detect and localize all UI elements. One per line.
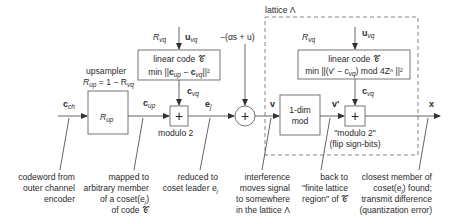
svg-text:"finite lattice: "finite lattice (302, 183, 348, 193)
annotation-back-to-region: back to "finite lattice region" of 𝒞 (302, 172, 349, 204)
svg-text:encoder: encoder (44, 194, 75, 204)
svg-text:of a coset(ej): of a coset(ej) (100, 194, 149, 205)
coset-coding-diagram: lattice Λ cch Rup upsampler Rup = 1 − Rv… (0, 0, 452, 224)
c-vq-label-1: cvq (187, 86, 199, 98)
linear-code-1-rate: Rvq (153, 32, 166, 44)
svg-text:outer channel: outer channel (23, 183, 75, 193)
svg-text:reduced to: reduced to (177, 172, 218, 182)
leader-line-1 (60, 118, 69, 170)
x-label: x (429, 99, 434, 109)
leader-line-2 (134, 118, 143, 170)
svg-text:coset(ej) found;: coset(ej) found; (373, 183, 432, 194)
linear-code-1-title: linear code 𝒞 (153, 54, 205, 64)
leader-line-4 (262, 118, 271, 170)
svg-text:region" of 𝒞: region" of 𝒞 (302, 194, 349, 204)
svg-text:codeword from: codeword from (18, 172, 75, 182)
svg-text:in the lattice Λ: in the lattice Λ (236, 205, 290, 215)
svg-text:(quantization error): (quantization error) (359, 205, 432, 215)
upsampler-caption: upsampler (86, 66, 126, 76)
svg-text:closest member of: closest member of (362, 172, 433, 182)
leader-line-3 (200, 118, 210, 170)
one-dim-mod-line2: mod (292, 116, 309, 126)
v-label: v (270, 99, 275, 109)
interference-label: −(αs + u) (220, 32, 255, 42)
modulo-2-plus-icon: + (175, 108, 183, 124)
c-vq-label-2: cvq (362, 86, 374, 98)
linear-code-2-rate: Rvq (302, 32, 315, 44)
adder-plus-icon: + (241, 108, 249, 124)
e-j-label: ej (205, 99, 212, 111)
svg-text:to somewhere: to somewhere (236, 194, 290, 204)
annotation-mapped: mapped to arbitrary member of a coset(ej… (84, 172, 150, 215)
svg-text:moves signal: moves signal (240, 183, 290, 193)
v-prime-label: v' (332, 99, 339, 109)
svg-text:transmit difference: transmit difference (361, 194, 432, 204)
upsampler-block (88, 91, 128, 134)
one-dim-mod-line1: 1-dim (289, 105, 311, 115)
svg-text:of code 𝒞: of code 𝒞 (111, 205, 150, 215)
one-dim-mod-block (280, 95, 320, 135)
u-vq-label-1: uvq (185, 32, 198, 44)
u-vq-label-2: uvq (362, 28, 375, 40)
upsampler-rate: Rup = 1 − Rvq (83, 77, 134, 89)
annotation-reduced: reduced to coset leader ej (163, 172, 219, 194)
flip-plus-icon: + (351, 108, 359, 124)
annotation-closest-member: closest member of coset(ej) found; trans… (359, 172, 432, 215)
flip-label-line2: (flip sign-bits) (329, 139, 380, 149)
lattice-region-label: lattice Λ (265, 5, 296, 15)
annotation-codeword: codeword from outer channel encoder (18, 172, 75, 204)
modulo-2-label: modulo 2 (158, 128, 194, 138)
annotation-interference: interference moves signal to somewhere i… (236, 172, 290, 215)
linear-code-2-title: linear code 𝒞 (328, 54, 380, 64)
c-ch-label: cch (63, 99, 75, 110)
svg-text:back to: back to (320, 172, 348, 182)
svg-text:coset leader ej: coset leader ej (163, 183, 219, 194)
svg-text:arbitrary member: arbitrary member (84, 183, 150, 193)
flip-label-line1: "modulo 2" (334, 128, 375, 138)
svg-text:mapped to: mapped to (108, 172, 149, 182)
leader-line-6 (419, 118, 428, 170)
c-up-label: cup (143, 98, 156, 110)
svg-text:interference: interference (245, 172, 291, 182)
